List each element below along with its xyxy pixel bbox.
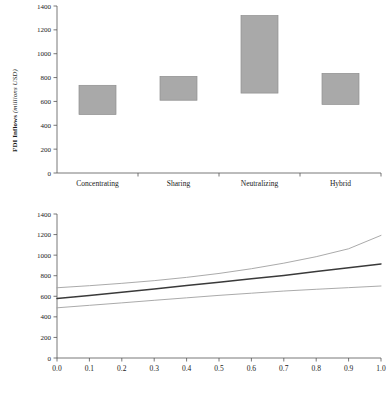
- bottom-chart-series-line: [57, 264, 381, 299]
- bottom-chart-y-tick-label: 1400: [37, 211, 52, 219]
- bottom-chart-x-tick-label: 0.8: [312, 364, 322, 373]
- bottom-chart-x-tick-label: 0.6: [247, 364, 257, 373]
- top-chart-y-tick-label: 0: [48, 170, 52, 178]
- top-chart-y-axis-title-italic: (millions USD): [11, 69, 19, 113]
- top-chart-y-tick-label: 1000: [37, 50, 52, 58]
- top-chart-range-bar: [160, 76, 197, 100]
- bottom-chart-x-tick-label: 0.5: [214, 364, 224, 373]
- bottom-line-chart: FDI Inflows (millions USD) Degree of Lin…: [0, 202, 389, 404]
- top-chart-y-tick-group: 0200400600800100012001400: [37, 3, 57, 178]
- bottom-chart-y-tick-group: 0200400600800100012001400: [37, 211, 57, 363]
- top-chart-range-bar: [241, 16, 278, 94]
- bottom-chart-series-line: [57, 286, 381, 308]
- bottom-chart-x-tick-label: 0.4: [182, 364, 192, 373]
- bottom-chart-x-tick-label-group: 0.00.10.20.30.40.50.60.70.80.91.0: [52, 364, 386, 373]
- top-chart-y-tick-label: 600: [41, 98, 52, 106]
- top-chart-x-tick-label: Neutralizing: [241, 179, 279, 188]
- bottom-chart-x-tick-label: 0.7: [279, 364, 289, 373]
- bottom-chart-x-tick-label: 0.2: [117, 364, 127, 373]
- bottom-chart-x-tick-group: [57, 358, 381, 362]
- bottom-chart-y-tick-label: 800: [41, 272, 52, 280]
- top-chart-y-tick-label: 1400: [37, 3, 52, 11]
- bottom-chart-x-tick-label: 0.9: [344, 364, 354, 373]
- bottom-chart-x-tick-label: 1.0: [376, 364, 386, 373]
- bottom-chart-y-tick-label: 400: [41, 313, 52, 321]
- bottom-chart-y-tick-label: 0: [48, 355, 52, 363]
- bottom-chart-series-line: [57, 235, 381, 287]
- top-chart-y-axis-title-bold: FDI Inflows: [11, 115, 19, 152]
- bottom-chart-x-tick-label: 0.0: [52, 364, 62, 373]
- top-chart-bar-group: [79, 16, 359, 115]
- bottom-chart-y-tick-label: 200: [41, 334, 52, 342]
- bottom-chart-series-group: [57, 235, 381, 307]
- top-chart-y-axis-title: FDI Inflows (millions USD): [11, 69, 19, 152]
- bottom-chart-y-tick-label: 600: [41, 293, 52, 301]
- top-chart-x-tick-label: Concentrating: [76, 179, 119, 188]
- top-chart-range-bar: [322, 73, 359, 104]
- bottom-chart-plot-area: 0200400600800100012001400 0.00.10.20.30.…: [0, 202, 389, 404]
- bottom-chart-y-tick-label: 1200: [37, 231, 52, 239]
- top-chart-x-tick-label: Sharing: [167, 179, 191, 188]
- top-chart-range-bar: [79, 85, 116, 114]
- top-chart-y-tick-label: 400: [41, 122, 52, 130]
- top-chart-y-tick-label: 200: [41, 146, 52, 154]
- bottom-chart-x-tick-label: 0.1: [85, 364, 95, 373]
- top-chart-plot-area: 0200400600800100012001400 ConcentratingS…: [0, 0, 389, 202]
- top-chart-y-tick-label: 1200: [37, 26, 52, 34]
- top-chart-x-tick-label: Hybrid: [330, 179, 351, 188]
- top-chart-x-tick-label-group: ConcentratingSharingNeutralizingHybrid: [76, 179, 351, 188]
- top-chart-y-tick-label: 800: [41, 74, 52, 82]
- bottom-chart-x-tick-label: 0.3: [150, 364, 160, 373]
- bottom-chart-y-tick-label: 1000: [37, 252, 52, 260]
- top-chart-x-tick-group: [138, 173, 381, 177]
- top-range-bar-chart: FDI Inflows (millions USD) 0200400600800…: [0, 0, 389, 202]
